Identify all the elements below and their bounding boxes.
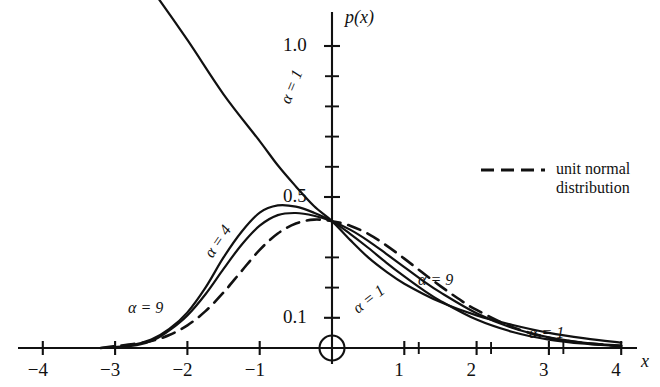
x-tick-label: 3 [539,360,549,379]
annotation-alpha1-far-right: α = 1 [529,325,564,341]
y-tick-label: 1.0 [283,35,307,54]
annotation-alpha9-right: α = 9 [418,272,453,288]
x-tick-label: −2 [172,360,192,379]
annotation-alpha9-left: α = 9 [128,300,163,316]
x-tick-label: 2 [467,360,477,379]
legend-label-line1: unit normal [556,160,630,178]
y-axis-label: p(x) [345,8,374,26]
x-tick-label: 4 [611,360,621,379]
x-tick-label: −1 [245,360,265,379]
x-tick-label: −3 [100,360,120,379]
legend-label-line2: distribution [556,179,630,197]
y-tick-label: 0.1 [283,307,307,326]
x-tick-label: −4 [28,360,48,379]
y-tick-label: 0.5 [283,186,307,205]
x-axis-label: x [641,352,649,370]
figure-plot: p(x) x −4−3−2−11234 0.10.51.0 α = 1α = 4… [0,0,660,387]
x-tick-label: 1 [394,360,404,379]
